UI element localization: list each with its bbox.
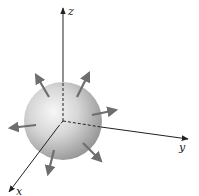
y-axis-label: y (179, 142, 185, 153)
y-axis (101, 127, 188, 139)
z-axis-label: z (68, 6, 74, 17)
sphere-flux-diagram: z y x (0, 0, 199, 196)
x-axis-label: x (16, 186, 22, 196)
diagram-canvas (0, 0, 199, 196)
